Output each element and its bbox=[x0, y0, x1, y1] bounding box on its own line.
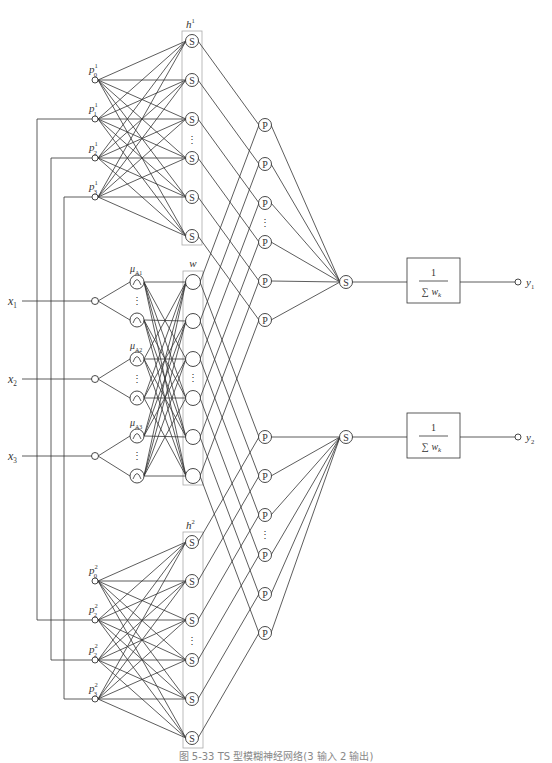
connection-line bbox=[198, 158, 259, 242]
membership-node bbox=[130, 313, 144, 327]
consequent-param-label: p10 bbox=[88, 62, 98, 78]
connection-line bbox=[198, 119, 259, 203]
h2-sum-node-glyph: S bbox=[189, 537, 195, 548]
connection-line bbox=[98, 301, 130, 320]
consequent-param-label: p23 bbox=[88, 681, 98, 697]
connection-line bbox=[198, 80, 259, 164]
output-label: y2 bbox=[525, 431, 534, 445]
output-node bbox=[515, 434, 521, 440]
connection-line bbox=[271, 164, 340, 282]
membership-ellipsis: ⋮ bbox=[132, 295, 142, 306]
product-node-glyph: P bbox=[262, 589, 268, 600]
product-node-glyph: P bbox=[262, 237, 268, 248]
h1-layer-label: h1 bbox=[186, 17, 195, 30]
connection-line bbox=[198, 41, 259, 125]
connection-line bbox=[198, 633, 259, 738]
membership-label: μA3 bbox=[129, 417, 142, 430]
consequent-param-label: p22 bbox=[88, 602, 98, 618]
normalizer-numerator: 1 bbox=[431, 422, 436, 433]
connection-line bbox=[98, 542, 186, 699]
consequent-param-label: p22 bbox=[88, 642, 98, 658]
connection-line bbox=[98, 197, 186, 236]
input-label: x3 bbox=[7, 449, 17, 465]
rule-ellipsis: ⋮ bbox=[188, 372, 198, 383]
product-upper-ellipsis: ⋮ bbox=[260, 217, 270, 228]
connection-line bbox=[200, 125, 259, 282]
consequent-param-label: p11 bbox=[88, 101, 98, 117]
rule-node bbox=[186, 391, 201, 406]
product-node-glyph: P bbox=[262, 550, 268, 561]
membership-node bbox=[130, 469, 144, 483]
connection-line bbox=[198, 197, 259, 281]
consequent-param-label: p12 bbox=[88, 140, 98, 156]
output-sum-node-glyph: S bbox=[343, 432, 349, 443]
product-node-glyph: P bbox=[262, 159, 268, 170]
connection-line bbox=[198, 437, 259, 542]
connection-line bbox=[271, 203, 340, 282]
connection-line bbox=[98, 542, 186, 581]
rule-layer-label: w bbox=[189, 257, 197, 269]
membership-node bbox=[130, 391, 144, 405]
input-node bbox=[92, 298, 99, 305]
connection-line bbox=[271, 125, 340, 282]
h1-sum-node-glyph: S bbox=[189, 36, 195, 47]
figure-caption: 图 5-33 TS 型模糊神经网络(3 输入 2 输出) bbox=[0, 748, 552, 763]
input-node bbox=[92, 376, 99, 383]
connection-line bbox=[198, 515, 259, 620]
normalizer-numerator: 1 bbox=[431, 267, 436, 278]
rule-node bbox=[186, 469, 201, 484]
input-label: x2 bbox=[7, 372, 17, 388]
consequent-param-label: p20 bbox=[88, 563, 98, 579]
product-node-glyph: P bbox=[262, 628, 268, 639]
connection-line bbox=[198, 555, 259, 660]
h1-sum-node-glyph: S bbox=[189, 231, 195, 242]
product-node-glyph: P bbox=[262, 315, 268, 326]
connection-line bbox=[98, 699, 186, 738]
h1-ellipsis: ⋮ bbox=[187, 134, 197, 145]
connection-line bbox=[198, 476, 259, 581]
input-label: x1 bbox=[7, 294, 17, 310]
product-node-glyph: P bbox=[262, 510, 268, 521]
product-node-glyph: P bbox=[262, 276, 268, 287]
connection-line bbox=[271, 437, 340, 633]
membership-ellipsis: ⋮ bbox=[132, 373, 142, 384]
fuzzy-neural-network-diagram: p10p11p12p13p20p22p22p23SSSSSS⋮SSSSSS⋮h1… bbox=[0, 0, 552, 763]
output-sum-node-glyph: S bbox=[343, 277, 349, 288]
connection-line bbox=[271, 282, 340, 320]
h2-layer-label: h2 bbox=[186, 518, 195, 531]
membership-node bbox=[130, 352, 144, 366]
membership-label: μA1 bbox=[129, 263, 142, 276]
rule-node bbox=[186, 352, 201, 367]
product-node-glyph: P bbox=[262, 432, 268, 443]
connection-line bbox=[98, 456, 130, 476]
connection-line bbox=[198, 236, 259, 320]
membership-ellipsis: ⋮ bbox=[132, 450, 142, 461]
rule-node bbox=[186, 314, 201, 329]
consequent-param-label: p13 bbox=[88, 179, 98, 195]
connection-line bbox=[271, 437, 340, 594]
connection-line bbox=[98, 282, 130, 301]
connection-line bbox=[98, 620, 186, 738]
connection-line bbox=[271, 242, 340, 282]
connection-line bbox=[271, 281, 340, 282]
input-node bbox=[92, 453, 99, 460]
membership-node bbox=[130, 429, 144, 443]
connection-line bbox=[271, 437, 340, 476]
connection-line bbox=[200, 242, 259, 398]
product-node-glyph: P bbox=[262, 120, 268, 131]
connection-line bbox=[98, 436, 130, 456]
output-label: y1 bbox=[525, 276, 534, 290]
connection-line bbox=[98, 542, 186, 660]
connection-line bbox=[98, 359, 130, 379]
connection-line bbox=[98, 379, 130, 398]
product-node-glyph: P bbox=[262, 471, 268, 482]
connection-line bbox=[271, 437, 340, 555]
h2-sum-node-glyph: S bbox=[189, 694, 195, 705]
connection-line bbox=[200, 164, 259, 321]
output-node bbox=[515, 279, 521, 285]
h2-ellipsis: ⋮ bbox=[187, 635, 197, 646]
connection-line bbox=[98, 41, 186, 80]
connection-line bbox=[200, 398, 259, 555]
membership-node bbox=[130, 275, 144, 289]
h1-sum-node-glyph: S bbox=[189, 192, 195, 203]
